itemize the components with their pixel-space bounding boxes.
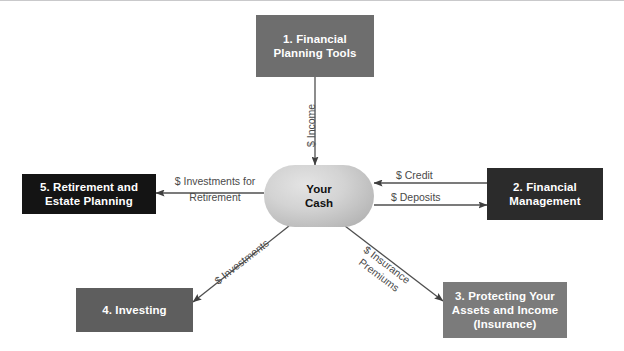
hub-your-cash[interactable]: Your Cash xyxy=(264,165,374,227)
node-financial-management-line2: Management xyxy=(509,194,580,208)
node-protecting-your-assets-and-income[interactable]: 3. Protecting Your Assets and Income (In… xyxy=(443,282,567,338)
node-financial-management-line1: 2. Financial xyxy=(509,180,580,194)
hub-label-line2: Cash xyxy=(305,196,333,210)
node-retirement-and-estate-planning-line1: 5. Retirement and xyxy=(40,180,138,194)
node-retirement-and-estate-planning[interactable]: 5. Retirement and Estate Planning xyxy=(22,174,156,214)
node-investing[interactable]: 4. Investing xyxy=(76,288,193,332)
edge-label-investments-for-retirement-line2: Retirement xyxy=(163,191,267,204)
edge-label-investments-for-retirement: $ Investments for Retirement xyxy=(163,175,267,204)
node-protecting-your-assets-and-income-line3: (Insurance) xyxy=(452,317,559,331)
edge-label-income: $ Income xyxy=(305,104,318,147)
node-financial-planning-tools[interactable]: 1. Financial Planning Tools xyxy=(256,15,374,77)
edge-label-investments-for-retirement-line1: $ Investments for xyxy=(163,175,267,188)
node-financial-planning-tools-line1: 1. Financial xyxy=(274,32,357,46)
edge-label-deposits: $ Deposits xyxy=(391,191,441,204)
node-investing-line1: 4. Investing xyxy=(102,303,166,317)
diagram-canvas: 1. Financial Planning Tools 2. Financial… xyxy=(0,0,624,351)
node-financial-planning-tools-line2: Planning Tools xyxy=(274,46,357,60)
edge-label-credit: $ Credit xyxy=(396,169,433,182)
node-retirement-and-estate-planning-line2: Estate Planning xyxy=(40,194,138,208)
node-financial-management[interactable]: 2. Financial Management xyxy=(487,168,603,220)
hub-label-line1: Your xyxy=(305,182,333,196)
node-protecting-your-assets-and-income-line2: Assets and Income xyxy=(452,303,559,317)
node-protecting-your-assets-and-income-line1: 3. Protecting Your xyxy=(452,289,559,303)
